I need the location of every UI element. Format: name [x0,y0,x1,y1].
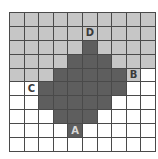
grid-cell [25,138,40,152]
grid-cell [54,13,69,27]
grid-cell [83,55,98,69]
grid-cell [68,110,83,124]
grid-cell: D [83,27,98,41]
grid-cell [141,69,156,83]
grid-cell [141,96,156,110]
grid-cell [25,110,40,124]
grid-cell [127,55,142,69]
grid-cell [54,138,69,152]
grid-cell [68,41,83,55]
grid-cell [39,96,54,110]
grid-cell [112,55,127,69]
grid-cell [39,69,54,83]
grid-cell [112,110,127,124]
grid-cell [68,138,83,152]
grid-cell [39,13,54,27]
grid-cell [98,69,113,83]
grid-cell [98,82,113,96]
grid-cell [25,41,40,55]
grid-cell [98,27,113,41]
grid-cell [39,55,54,69]
grid-cell [98,41,113,55]
grid-cell [83,69,98,83]
grid-cell [39,82,54,96]
grid-cell [68,13,83,27]
grid-diagram: DBCA [9,12,156,152]
grid-cell [112,27,127,41]
grid-cell: C [25,82,40,96]
grid-cell [10,41,25,55]
grid-cell [112,138,127,152]
grid-cell [112,124,127,138]
grid-cell [141,27,156,41]
point-label-a: A [71,126,79,136]
grid-cell [54,69,69,83]
grid-cell [141,41,156,55]
grid-cell [127,138,142,152]
grid-cell [127,124,142,138]
grid-cell [68,96,83,110]
grid-cell [68,82,83,96]
grid-cell [83,110,98,124]
grid-cell [25,69,40,83]
grid-cell [68,55,83,69]
grid-cell [39,110,54,124]
grid-cell [25,13,40,27]
grid-cell [10,110,25,124]
grid-cell [68,69,83,83]
grid-cell [10,124,25,138]
grid-cell [112,13,127,27]
grid-cell [83,124,98,138]
grid-cell [39,41,54,55]
grid-cell [54,55,69,69]
grid-cell [39,27,54,41]
grid-cell [98,110,113,124]
grid-cell [54,41,69,55]
grid-cell [10,13,25,27]
grid-cell [39,138,54,152]
grid-cell [98,55,113,69]
grid-cell [127,41,142,55]
grid-cell [10,82,25,96]
grid-cell [25,96,40,110]
grid-cell [25,55,40,69]
grid-cell [10,138,25,152]
point-label-c: C [28,84,35,94]
grid-cell: A [68,124,83,138]
grid-cell [54,124,69,138]
grid-cell [98,138,113,152]
point-label-b: B [130,70,138,80]
grid-cell: B [127,69,142,83]
grid-cell [83,82,98,96]
grid-cell [98,124,113,138]
grid-cell [54,96,69,110]
grid-cell [127,96,142,110]
grid-cell [127,110,142,124]
grid-cell [98,96,113,110]
grid-cell [25,124,40,138]
grid-cell [68,27,83,41]
grid-cell [127,13,142,27]
grid-cell [127,27,142,41]
grid-cell [54,27,69,41]
grid-cell [83,41,98,55]
grid-cell [10,96,25,110]
grid-cell [54,82,69,96]
grid-cell [141,110,156,124]
grid-cell [112,69,127,83]
grid-cell [83,138,98,152]
grid-cell [83,96,98,110]
grid-cell [141,82,156,96]
grid-cell [10,55,25,69]
grid-cell [141,124,156,138]
grid-cell [112,82,127,96]
grid-cell [83,13,98,27]
grid-cell [25,27,40,41]
grid-cell [141,55,156,69]
grid-cell [112,96,127,110]
point-label-d: D [86,28,94,38]
grid-cell [10,27,25,41]
grid-cell [141,13,156,27]
grid-cell [112,41,127,55]
grid-cell [127,82,142,96]
